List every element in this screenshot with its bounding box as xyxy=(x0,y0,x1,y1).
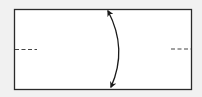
paper-sheet xyxy=(15,10,192,90)
fold-diagram xyxy=(0,0,202,97)
